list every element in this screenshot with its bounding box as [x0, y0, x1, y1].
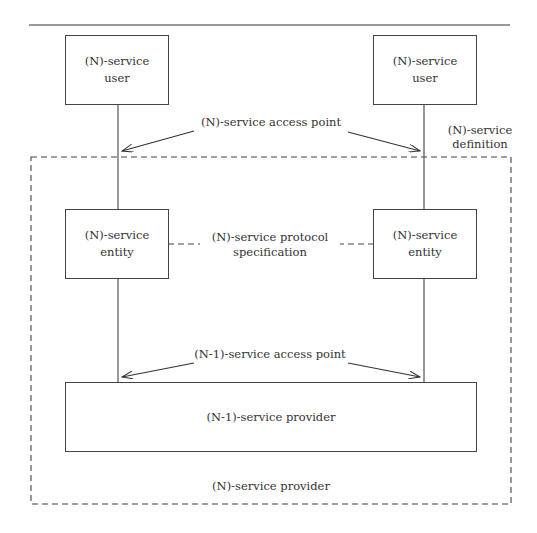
- label-protocol-spec-line2: specification: [200, 245, 340, 260]
- n-service-entity-left-box: (N)-service entity: [65, 209, 169, 279]
- label-service-definition-line2: definition: [440, 137, 520, 152]
- box-label-line2: entity: [66, 244, 168, 261]
- box-label-line2: entity: [374, 244, 476, 261]
- box-label: (N-1)-service provider: [66, 409, 476, 426]
- arrow-n1-access-point-left: [122, 363, 194, 377]
- box-label-line2: user: [66, 70, 168, 87]
- box-label-line1: (N)-service: [374, 53, 476, 70]
- box-label-line1: (N)-service: [66, 227, 168, 244]
- label-service-definition-line1: (N)-service: [440, 123, 520, 138]
- n-service-user-right-box: (N)-service user: [373, 35, 477, 105]
- box-label-line1: (N)-service: [66, 53, 168, 70]
- arrow-access-point-left: [122, 131, 194, 151]
- n-service-entity-right-box: (N)-service entity: [373, 209, 477, 279]
- label-n1-service-access-point: (N-1)-service access point: [190, 347, 350, 362]
- n1-service-provider-box: (N-1)-service provider: [65, 382, 477, 452]
- arrow-access-point-right: [348, 132, 420, 151]
- box-label-line1: (N)-service: [374, 227, 476, 244]
- label-n-service-access-point: (N)-service access point: [196, 115, 346, 130]
- arrow-n1-access-point-right: [348, 363, 420, 377]
- label-n-service-provider: (N)-service provider: [196, 479, 346, 494]
- box-label-line2: user: [374, 70, 476, 87]
- label-protocol-spec-line1: (N)-service protocol: [200, 230, 340, 245]
- n-service-user-left-box: (N)-service user: [65, 35, 169, 105]
